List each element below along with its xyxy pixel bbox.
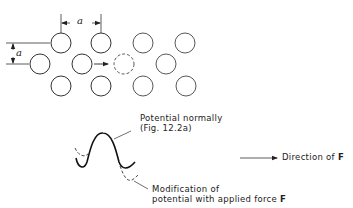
potential-normally-label: Potential normally (Fig. 12.2a) (140, 114, 223, 133)
atom (51, 33, 71, 53)
atom (133, 33, 153, 53)
potential-curve-modified (75, 148, 88, 156)
vertical-spacing-dimension (6, 43, 50, 64)
atom (133, 76, 153, 96)
diagram-canvas (0, 0, 353, 208)
modification-line2: potential with applied force F (152, 195, 286, 205)
potential-normally-line2: (Fig. 12.2a) (140, 124, 223, 134)
direction-text: Direction of (282, 152, 338, 162)
force-symbol: F (280, 194, 286, 204)
atom (91, 76, 111, 96)
modification-label: Modification of potential with applied f… (152, 185, 286, 204)
vacancy-atom-dashed (114, 54, 134, 74)
atom (30, 54, 50, 74)
direction-force-symbol: F (338, 152, 344, 162)
vertical-spacing-label: a (16, 47, 22, 58)
leader-line-normal (114, 131, 131, 139)
leader-line-modified (134, 181, 148, 189)
modification-line2-text: potential with applied force (152, 194, 280, 204)
atom (51, 76, 71, 96)
atom-lattice (30, 33, 196, 96)
horizontal-spacing-label: a (77, 15, 83, 26)
atom (176, 76, 196, 96)
atom (175, 33, 195, 53)
direction-label: Direction of F (282, 153, 344, 163)
atom (156, 54, 176, 74)
atom (72, 54, 92, 74)
atom (91, 33, 111, 53)
potential-curve-normal (76, 133, 135, 168)
